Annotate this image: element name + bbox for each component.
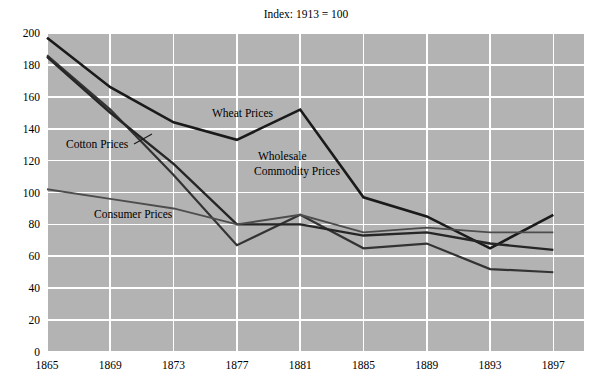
x-tick-label: 1885 [352, 359, 375, 371]
series-label-cotton-prices: Cotton Prices [66, 138, 129, 150]
series-label-wheat-prices: Wheat Prices [212, 107, 274, 119]
x-tick-label: 1877 [225, 359, 248, 371]
x-axis-tick-labels: 186518691873187718811885188918931897 [36, 359, 566, 371]
y-tick-label: 40 [29, 282, 41, 294]
x-tick-label: 1865 [36, 359, 59, 371]
series-label-wholesale-commodity-prices-line2: Commodity Prices [254, 165, 340, 178]
y-tick-label: 160 [23, 91, 41, 103]
y-tick-label: 100 [23, 187, 41, 199]
series-label-consumer-prices: Consumer Prices [94, 208, 173, 220]
y-tick-label: 120 [23, 155, 41, 167]
y-tick-label: 20 [29, 314, 41, 326]
y-tick-label: 60 [29, 250, 41, 262]
x-tick-label: 1889 [415, 359, 438, 371]
x-tick-label: 1881 [289, 359, 312, 371]
y-tick-label: 0 [34, 346, 40, 358]
x-tick-label: 1893 [479, 359, 502, 371]
y-tick-label: 140 [23, 123, 41, 135]
x-tick-label: 1897 [542, 359, 565, 371]
chart-container: Index: 1913 = 100 0204060801001201401601… [0, 0, 613, 389]
x-tick-label: 1873 [162, 359, 185, 371]
x-tick-label: 1869 [99, 359, 122, 371]
series-label-wholesale-commodity-prices: Wholesale [258, 150, 307, 162]
chart-title: Index: 1913 = 100 [264, 8, 349, 20]
y-tick-label: 200 [23, 27, 41, 39]
y-tick-label: 180 [23, 59, 41, 71]
price-index-line-chart: Index: 1913 = 100 0204060801001201401601… [0, 0, 613, 389]
y-tick-label: 80 [29, 218, 41, 230]
